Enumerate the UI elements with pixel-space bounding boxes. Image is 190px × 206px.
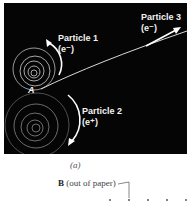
field-dot-row <box>109 199 187 201</box>
particle-1-spiral <box>13 48 55 90</box>
particle-2-arrow <box>68 95 80 141</box>
particle-2-spiral <box>5 93 69 154</box>
bubble-chamber-photo: Particle 1 (e⁻) Particle 2 (e⁺) Particle… <box>4 3 187 154</box>
pointer-bracket <box>118 182 129 198</box>
particle-1-label: Particle 1 (e⁻) <box>58 33 98 55</box>
particle-1-arrowhead <box>46 39 52 47</box>
field-direction: (out of paper) <box>66 178 115 188</box>
particle-3-label: Particle 3 (e⁻) <box>141 12 181 34</box>
particle-2-label: Particle 2 (e⁺) <box>82 106 122 128</box>
figure-caption: (a) <box>70 160 81 170</box>
point-a-label: A <box>28 85 35 96</box>
field-symbol: B <box>58 178 64 188</box>
magnetic-field-label: B (out of paper) <box>58 178 116 188</box>
